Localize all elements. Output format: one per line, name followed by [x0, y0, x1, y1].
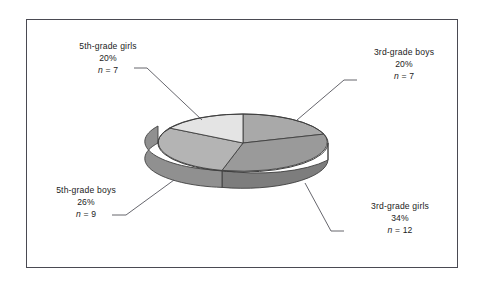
slice-label-count: n = 7	[348, 70, 460, 82]
slice-label-count: n = 12	[344, 224, 456, 236]
n-value: = 9	[81, 209, 96, 219]
slice-label-3rd-grade-girls: 3rd-grade girls 34% n = 12	[344, 200, 456, 237]
leader-line-3rd-grade-girls	[305, 183, 344, 231]
slice-label-3rd-grade-boys: 3rd-grade boys 20% n = 7	[348, 46, 460, 83]
slice-label-title: 5th-grade girls	[52, 40, 164, 52]
n-value: = 7	[399, 71, 414, 81]
slice-label-title: 3rd-grade boys	[348, 46, 460, 58]
slice-label-title: 5th-grade boys	[30, 184, 142, 196]
slice-label-count: n = 9	[30, 208, 142, 220]
slice-label-count: n = 7	[52, 64, 164, 76]
slice-label-percent: 34%	[344, 212, 456, 224]
slice-label-percent: 20%	[348, 58, 460, 70]
n-value: = 12	[392, 225, 412, 235]
n-value: = 7	[103, 65, 118, 75]
slice-label-percent: 20%	[52, 52, 164, 64]
slice-label-percent: 26%	[30, 196, 142, 208]
slice-label-title: 3rd-grade girls	[344, 200, 456, 212]
leader-line-3rd-grade-boys	[297, 80, 357, 120]
slice-label-5th-grade-girls: 5th-grade girls 20% n = 7	[52, 40, 164, 77]
pie-chart-figure: 5th-grade girls 20% n = 7 3rd-grade boys…	[0, 0, 484, 281]
slice-label-5th-grade-boys: 5th-grade boys 26% n = 9	[30, 184, 142, 221]
